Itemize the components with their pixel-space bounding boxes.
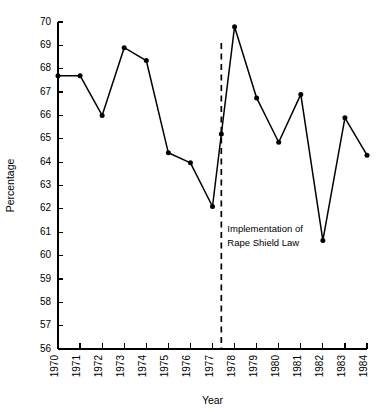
y-tick-label-69: 69 — [40, 39, 52, 50]
y-tick-label-57: 57 — [40, 319, 52, 330]
y-tick-label-66: 66 — [40, 109, 52, 120]
y-axis-group: 565758596061626364656667686970 Percentag… — [4, 16, 63, 354]
data-point-1976 — [188, 160, 193, 165]
x-tick-label-1981: 1981 — [292, 355, 303, 378]
y-tick-label-58: 58 — [40, 296, 52, 307]
x-tick-label-1973: 1973 — [115, 355, 126, 378]
x-tick-label-1978: 1978 — [226, 355, 237, 378]
x-tick-label-1979: 1979 — [248, 355, 259, 378]
chart-svg: 565758596061626364656667686970 Percentag… — [0, 0, 377, 412]
x-tick-label-1983: 1983 — [336, 355, 347, 378]
x-tick-label-1980: 1980 — [270, 355, 281, 378]
annotation-group: Implementation of Rape Shield Law — [221, 43, 303, 349]
data-point-1977 — [210, 204, 215, 209]
y-axis-title: Percentage — [4, 158, 16, 212]
data-point-1981 — [298, 92, 303, 97]
y-tick-label-56: 56 — [40, 343, 52, 354]
x-tick-marks — [58, 343, 367, 349]
x-tick-label-1977: 1977 — [204, 355, 215, 378]
annotation-line-2: Rape Shield Law — [227, 237, 299, 248]
y-tick-label-70: 70 — [40, 16, 52, 27]
data-point-1978 — [232, 24, 237, 29]
data-point-1970 — [56, 73, 61, 78]
y-tick-label-64: 64 — [40, 156, 52, 167]
data-point-1972 — [100, 113, 105, 118]
x-tick-label-1982: 1982 — [314, 355, 325, 378]
x-tick-labels: 1970197119721973197419751976197719781979… — [49, 355, 369, 378]
x-axis-group: 1970197119721973197419751976197719781979… — [49, 343, 369, 406]
line-chart: 565758596061626364656667686970 Percentag… — [0, 0, 377, 412]
y-tick-label-61: 61 — [40, 226, 52, 237]
y-tick-label-68: 68 — [40, 62, 52, 73]
x-tick-label-1975: 1975 — [159, 355, 170, 378]
x-tick-label-1971: 1971 — [71, 355, 82, 378]
x-tick-label-1974: 1974 — [137, 355, 148, 378]
y-tick-label-65: 65 — [40, 132, 52, 143]
data-point-1973 — [122, 45, 127, 50]
data-point-1971 — [78, 73, 83, 78]
data-point-1975 — [166, 150, 171, 155]
y-tick-label-67: 67 — [40, 86, 52, 97]
y-tick-labels: 565758596061626364656667686970 — [40, 16, 52, 354]
data-point-1979 — [254, 95, 259, 100]
data-point-1982 — [320, 238, 325, 243]
series-group — [56, 24, 370, 243]
percentage-series-markers — [56, 24, 370, 243]
annotation-line-1: Implementation of — [227, 223, 303, 234]
y-tick-label-60: 60 — [40, 249, 52, 260]
data-point-1983 — [342, 115, 347, 120]
data-point-1977.4 — [219, 132, 224, 137]
x-axis-title: Year — [202, 394, 224, 406]
data-point-1974 — [144, 58, 149, 63]
x-tick-label-1976: 1976 — [181, 355, 192, 378]
x-tick-label-1972: 1972 — [93, 355, 104, 378]
data-point-1980 — [276, 140, 281, 145]
y-tick-label-63: 63 — [40, 179, 52, 190]
y-tick-marks — [58, 22, 63, 349]
y-tick-label-62: 62 — [40, 202, 52, 213]
y-tick-label-59: 59 — [40, 273, 52, 284]
x-tick-label-1970: 1970 — [49, 355, 60, 378]
x-tick-label-1984: 1984 — [358, 355, 369, 378]
data-point-1984 — [365, 153, 370, 158]
